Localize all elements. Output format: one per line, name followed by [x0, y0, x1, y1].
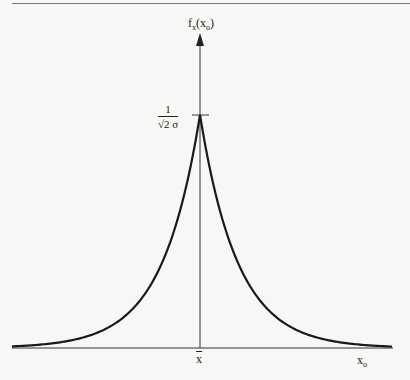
peak-denominator: √2 σ: [158, 117, 178, 130]
laplace-density-plot: [0, 0, 410, 380]
y-axis-arrow-icon: [196, 33, 204, 46]
y-axis-label: fx(xo): [188, 16, 214, 32]
peak-value-label: 1 √2 σ: [158, 104, 178, 130]
peak-numerator: 1: [158, 104, 178, 117]
mean-label: x: [196, 352, 202, 367]
density-curve: [12, 115, 392, 347]
x-axis-label: xo: [357, 353, 367, 369]
